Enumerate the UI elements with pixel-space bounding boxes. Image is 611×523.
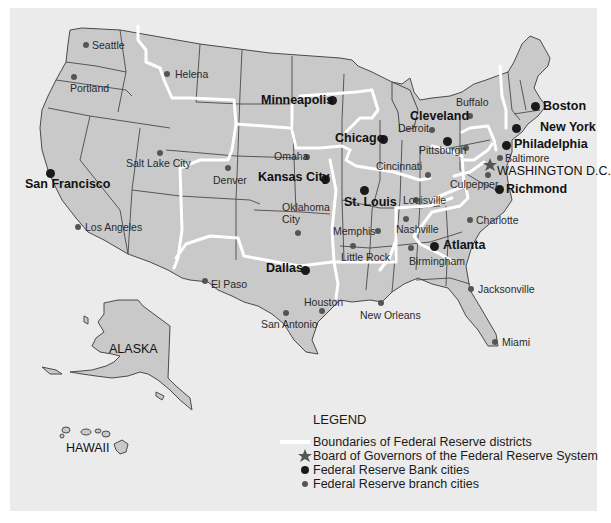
branch-dot-denver bbox=[225, 165, 231, 171]
city-label-new-orleans: New Orleans bbox=[360, 309, 421, 321]
legend-item-bank-cities: Federal Reserve Bank cities bbox=[298, 463, 598, 477]
city-label-jacksonville: Jacksonville bbox=[478, 283, 535, 295]
bank-dot-new-york bbox=[512, 124, 521, 133]
city-label-philadelphia: Philadelphia bbox=[514, 137, 588, 151]
legend-item-district-boundaries: Boundaries of Federal Reserve districts bbox=[298, 435, 598, 449]
city-label-omaha: Omaha bbox=[274, 150, 308, 162]
city-label-portland: Portland bbox=[70, 82, 109, 94]
branch-dot-cincinnati bbox=[425, 172, 431, 178]
city-label-seattle: Seattle bbox=[92, 39, 125, 51]
white-line-icon bbox=[280, 440, 310, 444]
branch-dot-new-orleans bbox=[378, 300, 384, 306]
city-label-st-louis: St. Louis bbox=[344, 195, 397, 209]
bank-dot-philadelphia bbox=[502, 141, 511, 150]
city-label-buffalo: Buffalo bbox=[456, 96, 489, 108]
city-label-baltimore: Baltimore bbox=[505, 152, 549, 164]
branch-dot-el-paso bbox=[202, 278, 208, 284]
city-label-cincinnati: Cincinnati bbox=[376, 160, 422, 172]
city-label-memphis: Memphis bbox=[333, 225, 376, 237]
region-label-hawaii: HAWAII bbox=[66, 441, 110, 455]
alaska-island bbox=[84, 316, 88, 324]
legend: LEGEND Boundaries of Federal Reserve dis… bbox=[298, 412, 598, 491]
city-label-helena: Helena bbox=[175, 68, 208, 80]
branch-dot-birmingham bbox=[408, 245, 414, 251]
city-label-charlotte: Charlotte bbox=[476, 214, 519, 226]
branch-dot-portland bbox=[71, 74, 77, 80]
city-label-richmond: Richmond bbox=[506, 182, 567, 196]
city-label-atlanta: Atlanta bbox=[443, 238, 485, 252]
city-label-detroit: Detroit bbox=[398, 122, 429, 134]
city-label-pittsburgh: Pittsburgh bbox=[419, 144, 466, 156]
branch-dot-seattle bbox=[83, 42, 89, 48]
city-label-el-paso: El Paso bbox=[211, 278, 247, 290]
legend-item-board-of-governors: Board of Governors of the Federal Reserv… bbox=[298, 449, 598, 463]
city-label-oklahoma-city: Oklahoma City bbox=[282, 201, 332, 225]
city-label-kansas-city: Kansas City bbox=[258, 170, 330, 184]
branch-dot-nashville bbox=[403, 216, 409, 222]
branch-dot-memphis bbox=[375, 228, 381, 234]
city-label-culpepper: Culpepper bbox=[450, 178, 498, 190]
city-label-denver: Denver bbox=[213, 174, 247, 186]
alaska-island bbox=[42, 367, 62, 374]
city-label-los-angeles: Los Angeles bbox=[85, 221, 142, 233]
small-dot-icon bbox=[298, 477, 312, 491]
large-dot-icon bbox=[298, 463, 312, 477]
branch-dot-baltimore bbox=[497, 155, 503, 161]
city-label-chicago: Chicago bbox=[335, 131, 384, 145]
city-label-minneapolis: Minneapolis bbox=[261, 93, 333, 107]
branch-dot-salt-lake-city bbox=[157, 150, 163, 156]
city-label-dallas: Dallas bbox=[266, 261, 303, 275]
city-label-san-francisco: San Francisco bbox=[25, 177, 110, 191]
city-label-boston: Boston bbox=[543, 99, 586, 113]
branch-dot-jacksonville bbox=[468, 286, 474, 292]
branch-dot-houston bbox=[319, 308, 325, 314]
branch-dot-los-angeles bbox=[75, 224, 81, 230]
city-label-birmingham: Birmingham bbox=[409, 255, 465, 267]
region-label-alaska: ALASKA bbox=[109, 342, 158, 356]
city-label-salt-lake-city: Salt Lake City bbox=[126, 157, 191, 169]
alaska-island bbox=[156, 392, 164, 400]
bank-dot-atlanta bbox=[430, 242, 439, 251]
bank-dot-boston bbox=[531, 102, 540, 111]
city-label-houston: Houston bbox=[304, 296, 343, 308]
branch-dot-detroit bbox=[429, 127, 435, 133]
city-label-washington-dc: WASHINGTON D.C. bbox=[497, 164, 611, 178]
branch-dot-helena bbox=[164, 71, 170, 77]
city-label-new-york: New York bbox=[540, 120, 596, 134]
branch-dot-miami bbox=[492, 339, 498, 345]
city-label-little-rock: Little Rock bbox=[341, 251, 390, 263]
city-label-louisville: Louisville bbox=[403, 194, 446, 206]
legend-item-branch-cities: Federal Reserve branch cities bbox=[298, 477, 598, 491]
city-label-cleveland: Cleveland bbox=[410, 109, 469, 123]
city-label-san-antonio: San Antonio bbox=[261, 318, 318, 330]
branch-dot-san-antonio bbox=[283, 310, 289, 316]
bank-dot-st-louis bbox=[360, 186, 369, 195]
branch-dot-little-rock bbox=[350, 243, 356, 249]
branch-dot-charlotte bbox=[467, 217, 473, 223]
branch-dot-oklahoma-city bbox=[295, 230, 301, 236]
legend-title: LEGEND bbox=[313, 412, 598, 427]
city-label-nashville: Nashville bbox=[396, 223, 439, 235]
city-label-miami: Miami bbox=[502, 336, 530, 348]
